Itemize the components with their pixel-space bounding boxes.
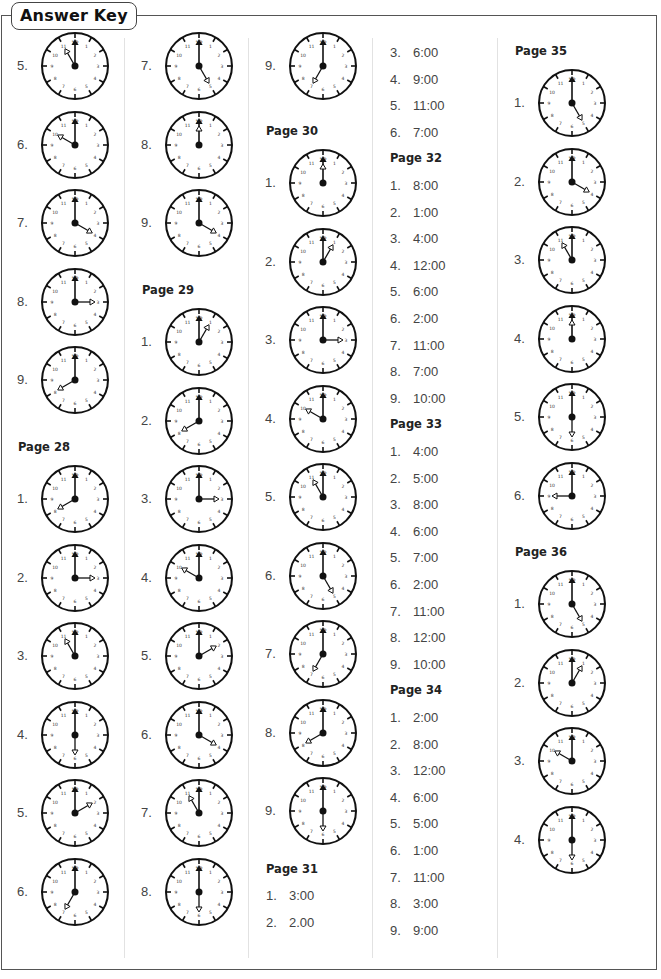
text-answer-item: 5.6:00	[390, 284, 438, 299]
svg-text:6: 6	[571, 517, 574, 522]
svg-text:5: 5	[85, 319, 88, 324]
item-number: 4.	[17, 727, 28, 742]
clock-face-icon: 121234567891011	[287, 226, 359, 298]
clock-answer-item: 3.121234567891011	[514, 725, 624, 797]
svg-text:5: 5	[333, 750, 336, 755]
svg-text:10: 10	[176, 878, 182, 883]
svg-text:11: 11	[61, 477, 67, 482]
svg-text:10: 10	[176, 486, 182, 491]
svg-text:4: 4	[590, 771, 593, 776]
svg-text:3: 3	[97, 733, 100, 738]
svg-text:3: 3	[594, 759, 597, 764]
answer-time: 7:00	[413, 125, 438, 140]
item-number: 2.	[514, 675, 525, 690]
item-number: 9.	[390, 391, 413, 406]
svg-text:1: 1	[333, 397, 336, 402]
answer-time: 7:00	[413, 550, 438, 565]
svg-text:4: 4	[93, 390, 96, 395]
svg-text:5: 5	[582, 779, 585, 784]
clock-face-icon: 121234567891011	[39, 109, 111, 181]
item-number: 6.	[514, 488, 525, 503]
clock-answer-item: 4.121234567891011	[265, 383, 375, 455]
svg-text:11: 11	[61, 201, 67, 206]
text-answer-item: 7.11:00	[390, 604, 445, 619]
clock-answer-item: 7.121234567891011	[265, 618, 375, 690]
svg-text:6: 6	[571, 782, 574, 787]
svg-text:1: 1	[85, 358, 88, 363]
clock-answer-item: 5.121234567891011	[141, 620, 251, 692]
page-heading: Page 35	[515, 44, 567, 58]
clock-answer-item: 5.121234567891011	[514, 381, 624, 453]
answer-time: 12:00	[413, 258, 446, 273]
clock-face-icon: 121234567891011	[163, 620, 235, 692]
svg-text:2: 2	[590, 669, 593, 674]
svg-text:4: 4	[590, 614, 593, 619]
svg-text:11: 11	[309, 554, 315, 559]
item-number: 4.	[514, 832, 525, 847]
answer-time: 2:00	[413, 311, 438, 326]
item-number: 2.	[266, 915, 289, 930]
svg-text:7: 7	[186, 517, 189, 522]
answer-time: 3:00	[413, 896, 438, 911]
item-number: 6.	[265, 568, 276, 583]
svg-text:11: 11	[309, 240, 315, 245]
svg-text:11: 11	[61, 123, 67, 128]
text-answer-item: 2.2.00	[266, 915, 314, 930]
answer-time: 11:00	[413, 870, 445, 885]
answer-time: 8:00	[413, 178, 438, 193]
clock-answer-item: 8.121234567891011	[141, 856, 251, 928]
svg-text:10: 10	[176, 210, 182, 215]
svg-text:2: 2	[341, 170, 344, 175]
svg-text:10: 10	[300, 327, 306, 332]
svg-text:11: 11	[309, 475, 315, 480]
item-number: 6.	[390, 577, 413, 592]
text-answer-item: 6.1:00	[390, 843, 438, 858]
answer-time: 8:00	[413, 497, 438, 512]
item-number: 3.	[265, 332, 276, 347]
svg-text:6: 6	[198, 520, 201, 525]
text-answer-item: 5.5:00	[390, 816, 438, 831]
svg-text:7: 7	[310, 829, 313, 834]
svg-text:8: 8	[178, 823, 181, 828]
svg-text:7: 7	[62, 909, 65, 914]
svg-text:2: 2	[590, 325, 593, 330]
clock-answer-item: 9.121234567891011	[265, 775, 375, 847]
clock-answer-item: 9.121234567891011	[17, 344, 127, 416]
svg-text:8: 8	[302, 350, 305, 355]
item-number: 4.	[390, 790, 413, 805]
clock-face-icon: 121234567891011	[39, 463, 111, 535]
svg-text:1: 1	[582, 238, 585, 243]
svg-text:6: 6	[322, 87, 325, 92]
svg-text:7: 7	[310, 84, 313, 89]
item-number: 7.	[141, 805, 152, 820]
svg-text:8: 8	[551, 191, 554, 196]
svg-text:2: 2	[590, 90, 593, 95]
svg-text:6: 6	[322, 832, 325, 837]
svg-text:8: 8	[551, 505, 554, 510]
svg-text:6: 6	[571, 360, 574, 365]
svg-text:5: 5	[333, 201, 336, 206]
svg-text:10: 10	[176, 53, 182, 58]
svg-text:5: 5	[333, 515, 336, 520]
svg-text:1: 1	[85, 201, 88, 206]
item-number: 3.	[390, 231, 413, 246]
svg-text:3: 3	[594, 101, 597, 106]
svg-text:7: 7	[310, 201, 313, 206]
item-number: 1.	[514, 596, 525, 611]
svg-text:3: 3	[221, 340, 224, 345]
svg-text:1: 1	[333, 789, 336, 794]
svg-text:1: 1	[85, 634, 88, 639]
item-number: 4.	[265, 411, 276, 426]
svg-text:10: 10	[300, 53, 306, 58]
item-number: 6.	[390, 125, 413, 140]
svg-text:1: 1	[85, 791, 88, 796]
text-answer-item: 1.2:00	[390, 710, 438, 725]
clock-face-icon: 121234567891011	[536, 647, 608, 719]
svg-text:11: 11	[558, 818, 564, 823]
svg-text:2: 2	[341, 248, 344, 253]
clock-answer-item: 4.121234567891011	[514, 303, 624, 375]
item-number: 1.	[265, 175, 276, 190]
svg-text:8: 8	[54, 587, 57, 592]
svg-text:11: 11	[185, 634, 191, 639]
item-number: 9.	[141, 215, 152, 230]
